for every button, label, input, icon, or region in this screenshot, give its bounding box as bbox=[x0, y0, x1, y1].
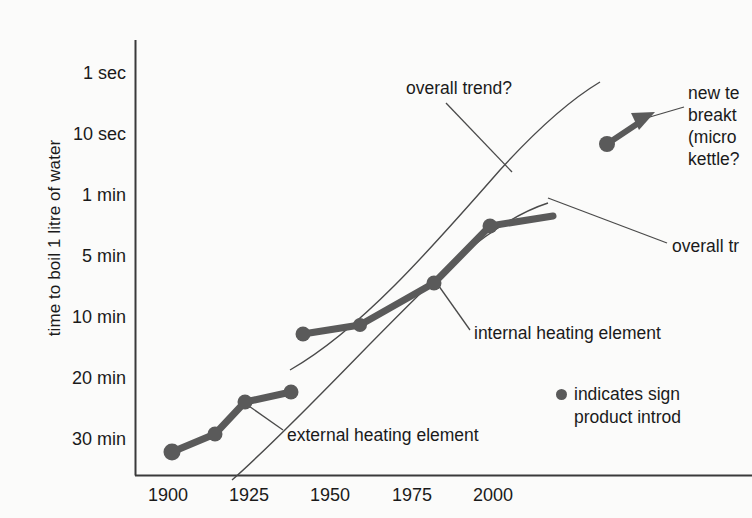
data-point-marker bbox=[238, 395, 253, 410]
data-point-marker bbox=[164, 444, 181, 461]
annotation-internal-heating-element: internal heating element bbox=[474, 322, 661, 344]
data-point-marker bbox=[296, 327, 311, 342]
leader-line-overall-trend-top bbox=[446, 103, 512, 172]
annotation-new-technology: new te breakt (micro kettle? bbox=[688, 82, 740, 170]
annotation-overall-trend-right: overall tr bbox=[672, 235, 739, 257]
series-line-external-heating-element bbox=[172, 392, 291, 452]
annotation-external-heating-element: external heating element bbox=[287, 424, 479, 446]
leader-line-overall-trend-right bbox=[548, 198, 667, 243]
data-point-marker bbox=[483, 219, 498, 234]
leader-line-internal-heating-element bbox=[436, 282, 470, 330]
legend-row: indicates sign bbox=[556, 383, 681, 406]
data-point-marker bbox=[427, 276, 442, 291]
chart-figure: time to boil 1 litre of water 1 sec 10 s… bbox=[0, 0, 752, 518]
series-line-internal-heating-element bbox=[303, 216, 553, 334]
legend-label-line-1: indicates sign bbox=[574, 383, 680, 406]
annotation-overall-trend-top: overall trend? bbox=[406, 77, 512, 99]
data-point-marker bbox=[353, 318, 367, 332]
legend-label-line-2: product introd bbox=[556, 406, 681, 429]
leader-line-external-heating-element bbox=[246, 404, 283, 430]
data-point-marker bbox=[208, 427, 223, 442]
annotation-new-technology-line-1: new te bbox=[688, 82, 740, 104]
annotation-new-technology-line-2: breakt bbox=[688, 104, 740, 126]
annotation-new-technology-line-3: (micro bbox=[688, 126, 740, 148]
legend: indicates sign product introd bbox=[556, 383, 681, 429]
legend-marker-dot-icon bbox=[556, 389, 567, 400]
data-point-marker bbox=[284, 385, 299, 400]
annotation-new-technology-line-4: kettle? bbox=[688, 148, 740, 170]
data-point-marker bbox=[599, 136, 615, 152]
